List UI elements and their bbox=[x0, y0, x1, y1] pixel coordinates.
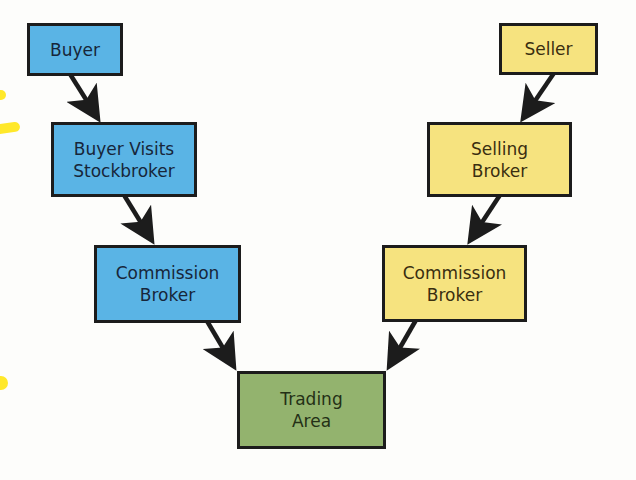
arrow-visits-to-commission-left bbox=[124, 195, 151, 239]
arrow-selling-broker-to-commission-right bbox=[471, 195, 500, 239]
node-label: Selling bbox=[471, 138, 528, 160]
node-seller: Seller bbox=[499, 23, 598, 75]
node-label: Stockbroker bbox=[73, 160, 175, 182]
node-label: Seller bbox=[524, 38, 572, 60]
node-label: Buyer bbox=[50, 39, 100, 61]
node-label: Broker bbox=[140, 284, 195, 306]
node-label: Trading bbox=[280, 388, 342, 410]
node-label: Commission bbox=[403, 262, 507, 284]
flowchart-canvas: Buyer Buyer Visits Stockbroker Commissio… bbox=[0, 0, 636, 480]
node-label: Commission bbox=[116, 262, 220, 284]
node-commission-broker-buyer: Commission Broker bbox=[94, 245, 241, 323]
node-trading-area: Trading Area bbox=[237, 371, 386, 449]
arrow-commission-left-to-trading bbox=[207, 321, 233, 365]
node-label: Broker bbox=[427, 284, 482, 306]
node-label: Area bbox=[292, 410, 331, 432]
node-buyer-visits-stockbroker: Buyer Visits Stockbroker bbox=[51, 122, 197, 197]
node-buyer: Buyer bbox=[27, 23, 123, 76]
node-label: Buyer Visits bbox=[74, 138, 174, 160]
arrow-commission-right-to-trading bbox=[390, 320, 416, 365]
node-selling-broker: Selling Broker bbox=[427, 122, 572, 197]
arrow-seller-to-selling-broker bbox=[524, 73, 554, 117]
node-commission-broker-seller: Commission Broker bbox=[382, 245, 527, 322]
node-label: Broker bbox=[472, 160, 527, 182]
arrow-buyer-to-visits bbox=[70, 74, 97, 117]
